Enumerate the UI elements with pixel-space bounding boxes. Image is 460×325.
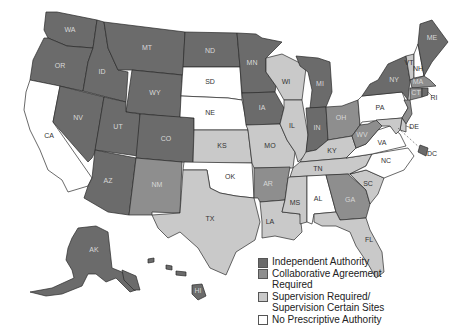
legend-label-none: No Prescriptive Authority	[272, 314, 382, 325]
state-label-NY: NY	[389, 76, 399, 83]
state-label-RI: RI	[431, 94, 438, 101]
hawaii-island-1	[148, 258, 154, 263]
legend-item-supervision: Supervision Required/ Supervision Certai…	[258, 291, 384, 314]
state-label-LA: LA	[266, 218, 275, 225]
state-label-WA: WA	[64, 26, 75, 33]
state-label-SC: SC	[363, 180, 373, 187]
state-NY	[362, 56, 410, 100]
legend-label-supervision: Supervision Required/ Supervision Certai…	[272, 291, 384, 314]
state-label-AR: AR	[263, 180, 273, 187]
hawaii-island-2	[166, 265, 172, 270]
map-legend: Independent Authority Collaborative Agre…	[258, 256, 384, 325]
state-label-ME: ME	[427, 34, 438, 41]
state-label-WV: WV	[356, 131, 368, 138]
state-label-MS: MS	[290, 199, 301, 206]
state-label-IA: IA	[259, 104, 266, 111]
legend-item-collaborative: Collaborative Agreement Required	[258, 268, 384, 291]
state-label-NM: NM	[152, 181, 163, 188]
state-label-SD: SD	[205, 78, 215, 85]
legend-swatch-collaborative	[258, 269, 268, 279]
state-label-IN: IN	[314, 124, 321, 131]
state-label-TX: TX	[206, 215, 215, 222]
state-label-CA: CA	[44, 132, 54, 139]
legend-label-independent: Independent Authority	[272, 256, 369, 268]
state-label-AZ: AZ	[104, 177, 114, 184]
state-label-AL: AL	[314, 195, 323, 202]
state-label-IL: IL	[289, 122, 295, 129]
legend-swatch-independent	[258, 258, 268, 268]
state-label-FL: FL	[365, 236, 373, 243]
state-label-TN: TN	[313, 165, 322, 172]
legend-swatch-none	[258, 315, 268, 325]
state-label-CT: CT	[411, 89, 421, 96]
state-label-OK: OK	[225, 173, 235, 180]
state-label-MO: MO	[264, 142, 276, 149]
state-label-NH: NH	[413, 65, 423, 72]
state-AK	[30, 226, 136, 296]
state-label-VA: VA	[378, 139, 387, 146]
state-label-DC: DC	[427, 150, 437, 157]
state-label-ID: ID	[99, 68, 106, 75]
state-label-GA: GA	[345, 196, 355, 203]
state-label-AK: AK	[89, 246, 99, 253]
state-label-WY: WY	[149, 89, 161, 96]
legend-label-collaborative: Collaborative Agreement Required	[272, 268, 382, 291]
state-label-NV: NV	[73, 114, 83, 121]
legend-item-none: No Prescriptive Authority	[258, 314, 384, 325]
state-label-KS: KS	[217, 142, 227, 149]
state-label-NC: NC	[381, 157, 391, 164]
state-label-KY: KY	[327, 147, 337, 154]
state-label-MI: MI	[316, 80, 324, 87]
state-label-UT: UT	[113, 123, 123, 130]
state-label-DE: DE	[409, 123, 419, 130]
state-label-HI: HI	[195, 287, 202, 294]
state-label-PA: PA	[376, 104, 385, 111]
state-label-CO: CO	[161, 135, 172, 142]
state-label-MA: MA	[413, 78, 424, 85]
state-label-NE: NE	[205, 109, 215, 116]
legend-swatch-supervision	[258, 292, 268, 302]
state-RI	[422, 88, 428, 97]
legend-item-independent: Independent Authority	[258, 256, 384, 268]
state-label-MT: MT	[142, 44, 153, 51]
state-label-ND: ND	[205, 47, 215, 54]
state-label-WI: WI	[282, 78, 291, 85]
state-label-OR: OR	[55, 62, 66, 69]
state-label-OH: OH	[336, 114, 347, 121]
state-label-MN: MN	[247, 59, 258, 66]
hawaii-island-3	[176, 271, 186, 276]
